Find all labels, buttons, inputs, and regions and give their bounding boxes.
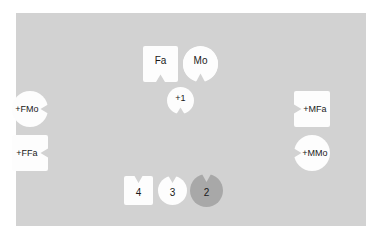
square-top-notch-shape (124, 176, 153, 205)
node-plus-f-fa[interactable]: +FFa (12, 135, 48, 171)
square-right-notch-shape (12, 135, 48, 171)
circle-top-notch-shape (190, 174, 223, 207)
diagram-panel: Fa Mo +1 +FMo (16, 13, 366, 226)
node-mo[interactable]: Mo (183, 46, 218, 82)
diagram-canvas: Fa Mo +1 +FMo (0, 0, 385, 243)
circle-right-notch-shape (12, 91, 48, 127)
node-plus1[interactable]: +1 (167, 87, 194, 114)
node-plus-f-mo[interactable]: +FMo (12, 91, 48, 127)
circle-top-notch-shape (158, 176, 187, 205)
square-left-notch-shape (294, 91, 330, 127)
node-4[interactable]: 4 (124, 176, 153, 205)
node-2[interactable]: 2 (190, 174, 223, 207)
circle-left-notch-shape (294, 135, 330, 171)
square-bottom-notch-shape (143, 46, 178, 82)
node-3[interactable]: 3 (158, 176, 187, 205)
circle-bottom-notch-shape (183, 46, 218, 82)
node-plus-m-fa[interactable]: +MFa (294, 91, 330, 127)
node-fa[interactable]: Fa (143, 46, 178, 82)
circle-bottom-notch-shape (167, 87, 194, 114)
node-plus-m-mo[interactable]: +MMo (294, 135, 330, 171)
